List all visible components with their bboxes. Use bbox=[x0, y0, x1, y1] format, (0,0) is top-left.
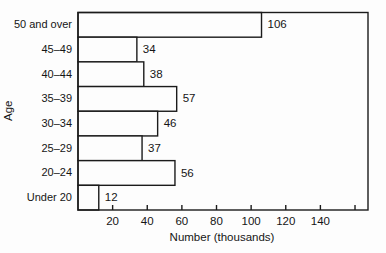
x-tick-label-140: 140 bbox=[311, 215, 330, 227]
chart-canvas: 50 and over45–4940–4435–3930–3425–2920–2… bbox=[0, 0, 386, 253]
x-tick-label-40: 40 bbox=[141, 215, 154, 227]
category-label-6: 20–24 bbox=[41, 166, 72, 178]
bar-1 bbox=[78, 37, 137, 62]
bar-4 bbox=[78, 111, 158, 136]
bar-6 bbox=[78, 161, 175, 186]
bar-0 bbox=[78, 13, 262, 38]
bar-5 bbox=[78, 136, 142, 161]
x-tick-label-20: 20 bbox=[106, 215, 119, 227]
x-tick-label-80: 80 bbox=[210, 215, 223, 227]
bar-value-label-3: 57 bbox=[183, 92, 196, 104]
category-label-2: 40–44 bbox=[41, 68, 72, 80]
age-distribution-bar-chart: 50 and over45–4940–4435–3930–3425–2920–2… bbox=[0, 0, 386, 253]
x-ticks-group bbox=[113, 205, 355, 210]
bar-value-label-4: 46 bbox=[164, 117, 177, 129]
category-label-3: 35–39 bbox=[41, 92, 72, 104]
bar-value-label-1: 34 bbox=[143, 43, 156, 55]
x-tick-label-100: 100 bbox=[242, 215, 261, 227]
category-label-5: 25–29 bbox=[41, 142, 72, 154]
bar-value-label-5: 37 bbox=[148, 142, 161, 154]
bars-group bbox=[78, 13, 262, 211]
x-tick-label-120: 120 bbox=[276, 215, 295, 227]
x-tick-label-60: 60 bbox=[175, 215, 188, 227]
x-axis-title: Number (thousands) bbox=[170, 231, 275, 243]
y-axis-title: Age bbox=[2, 101, 14, 121]
bar-value-label-0: 106 bbox=[268, 18, 287, 30]
bar-value-label-2: 38 bbox=[150, 68, 163, 80]
bar-value-label-6: 56 bbox=[181, 167, 194, 179]
bar-2 bbox=[78, 62, 144, 87]
bar-3 bbox=[78, 87, 177, 112]
x-tick-labels-group: 20406080100120140 bbox=[106, 215, 330, 227]
category-label-1: 45–49 bbox=[41, 43, 72, 55]
category-label-0: 50 and over bbox=[14, 18, 72, 30]
category-label-4: 30–34 bbox=[41, 117, 72, 129]
bar-value-label-7: 12 bbox=[105, 191, 118, 203]
bar-7 bbox=[78, 185, 99, 210]
category-labels-group: 50 and over45–4940–4435–3930–3425–2920–2… bbox=[14, 18, 72, 203]
category-label-7: Under 20 bbox=[27, 191, 72, 203]
